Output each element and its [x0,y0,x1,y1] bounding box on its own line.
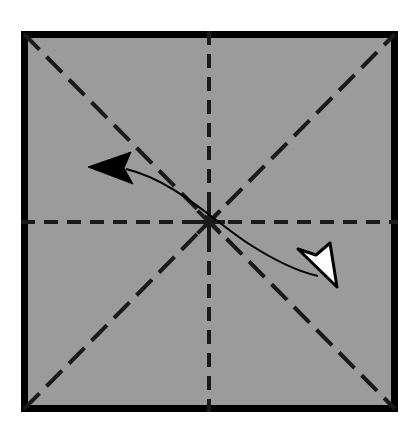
origami-figure [0,0,418,429]
origami-diagram-canvas: Origami step: square with pre-creased di… [0,0,418,429]
